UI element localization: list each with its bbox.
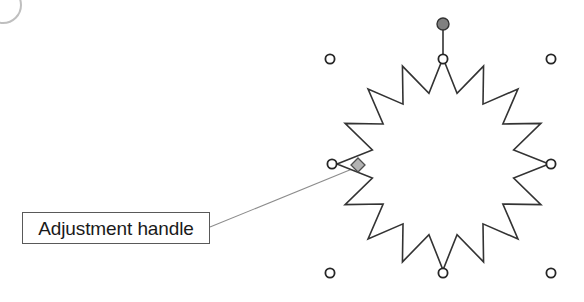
rotation-handle[interactable] [437,18,449,30]
sizing-handle-middle-right[interactable] [546,159,555,168]
sizing-handle-top-right[interactable] [546,54,555,63]
shape-diagram [0,0,584,302]
callout-label-box[interactable]: Adjustment handle [22,212,210,244]
sizing-handle-bottom-right[interactable] [546,268,555,277]
sizing-handle-middle-left[interactable] [327,159,336,168]
callout-label-text: Adjustment handle [38,219,194,238]
sizing-handle-bottom-left[interactable] [325,268,334,277]
sizing-handle-top-left[interactable] [325,54,334,63]
drawing-canvas[interactable]: Adjustment handle [0,0,584,302]
sizing-handle-top-center[interactable] [438,54,447,63]
star-shape[interactable] [337,58,549,270]
callout-leader-line [210,167,357,227]
sizing-handle-bottom-center[interactable] [438,268,447,277]
